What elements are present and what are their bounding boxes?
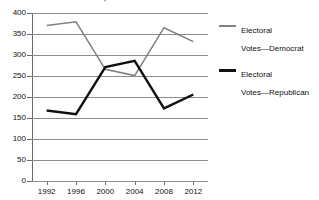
y-axis-tick-label: 350 xyxy=(0,30,26,38)
gridline xyxy=(32,160,208,161)
legend-item-democrat[interactable]: Electoral Votes—Democrat xyxy=(219,19,319,55)
y-axis-tick-label: 200 xyxy=(0,93,26,101)
gridline xyxy=(32,34,208,35)
legend-swatch-icon xyxy=(219,69,236,72)
y-axis-tick-label: 300 xyxy=(0,51,26,59)
y-axis-tick-label: 250 xyxy=(0,72,26,80)
gridline xyxy=(32,181,208,182)
legend-swatch-icon xyxy=(219,25,236,27)
plot-area xyxy=(32,13,208,181)
gridline xyxy=(32,97,208,98)
y-axis-tick-label: 150 xyxy=(0,114,26,122)
gridline xyxy=(32,76,208,77)
y-axis-tick-label: 50 xyxy=(0,156,26,164)
x-axis-tick-label: 2012 xyxy=(173,187,213,196)
legend-label: Electoral Votes—Democrat xyxy=(241,26,304,53)
chart-title: Elections, 1992-2012 xyxy=(0,0,215,2)
y-axis-tick-label: 0 xyxy=(0,177,26,185)
legend-item-republican[interactable]: Electoral Votes—Republican xyxy=(219,63,319,99)
gridline xyxy=(32,55,208,56)
y-axis-tick-label: 400 xyxy=(0,9,26,17)
chart-legend: Electoral Votes—DemocratElectoral Votes—… xyxy=(219,19,319,107)
y-axis-tick-label: 100 xyxy=(0,135,26,143)
gridline xyxy=(32,13,208,14)
legend-label: Electoral Votes—Republican xyxy=(241,70,309,97)
gridline xyxy=(32,139,208,140)
gridline xyxy=(32,118,208,119)
chart-root: Elections, 1992-2012 4003503002502001501… xyxy=(0,0,319,200)
